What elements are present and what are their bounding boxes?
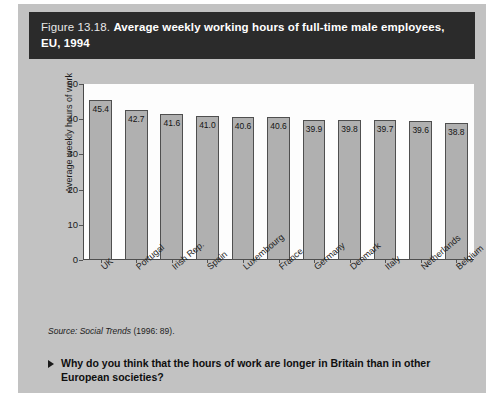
figure-panel: Figure 13.18. Average weekly working hou…: [18, 4, 486, 393]
bar: 39.8: [338, 120, 361, 260]
y-tick-label: 0: [48, 254, 78, 265]
source-publication: Social Trends: [80, 326, 131, 336]
figure-title-line: Figure 13.18. Average weekly working hou…: [41, 19, 463, 51]
bar-value-label: 39.7: [375, 124, 396, 134]
source-label: Source:: [48, 326, 77, 336]
bar: 45.4: [89, 100, 112, 260]
bar: 39.7: [374, 120, 397, 260]
bar: 39.6: [409, 121, 432, 260]
bar-value-label: 40.6: [233, 121, 254, 131]
bar-value-label: 39.9: [304, 124, 325, 134]
bar: 39.9: [303, 120, 326, 260]
y-tick-label: 20: [48, 184, 78, 195]
y-tick-label: 30: [48, 148, 78, 159]
y-tick-label: 10: [48, 219, 78, 230]
bar-value-label: 38.8: [446, 127, 467, 137]
discussion-question: Why do you think that the hours of work …: [48, 356, 472, 384]
source-citation: (1996: 89).: [133, 326, 174, 336]
y-tick-label: 40: [48, 113, 78, 124]
bar: 41.6: [160, 114, 183, 260]
bar-value-label: 42.7: [126, 114, 147, 124]
bar-value-label: 39.6: [410, 125, 431, 135]
bar: 40.6: [232, 117, 255, 260]
source-note: Source: Social Trends (1996: 89).: [48, 326, 175, 336]
figure-title-bar: Figure 13.18. Average weekly working hou…: [29, 12, 475, 59]
x-axis-labels: UKPortugalIrish Rep.SpainLuxembourgFranc…: [83, 260, 474, 324]
bar: 42.7: [125, 110, 148, 260]
bar-value-label: 39.8: [339, 124, 360, 134]
bar-value-label: 45.4: [90, 104, 111, 114]
figure-number: Figure 13.18.: [41, 21, 110, 33]
bar-value-label: 41.6: [161, 118, 182, 128]
triangle-right-icon: [48, 360, 54, 368]
chart-area: Average weekly hours of work 01020304050…: [48, 70, 474, 324]
question-text: Why do you think that the hours of work …: [61, 356, 472, 384]
bar-value-label: 40.6: [268, 121, 289, 131]
y-tick-label: 50: [48, 78, 78, 89]
bar-value-label: 41.0: [197, 120, 218, 130]
